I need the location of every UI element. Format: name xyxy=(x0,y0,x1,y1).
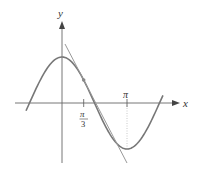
tick-label-pi: π xyxy=(123,89,129,100)
y-axis-arrow-icon xyxy=(59,21,65,29)
x-axis-label: x xyxy=(182,97,188,109)
tangent-line xyxy=(65,44,127,163)
x-axis-arrow-icon xyxy=(172,100,180,106)
cosine-tangent-diagram: y x π 3 π xyxy=(0,0,200,174)
y-axis-label: y xyxy=(57,7,63,19)
tick-label-pi-over-3-numerator: π xyxy=(80,109,85,119)
tangent-point xyxy=(82,78,86,82)
tick-label-pi-over-3-denominator: 3 xyxy=(81,119,85,129)
